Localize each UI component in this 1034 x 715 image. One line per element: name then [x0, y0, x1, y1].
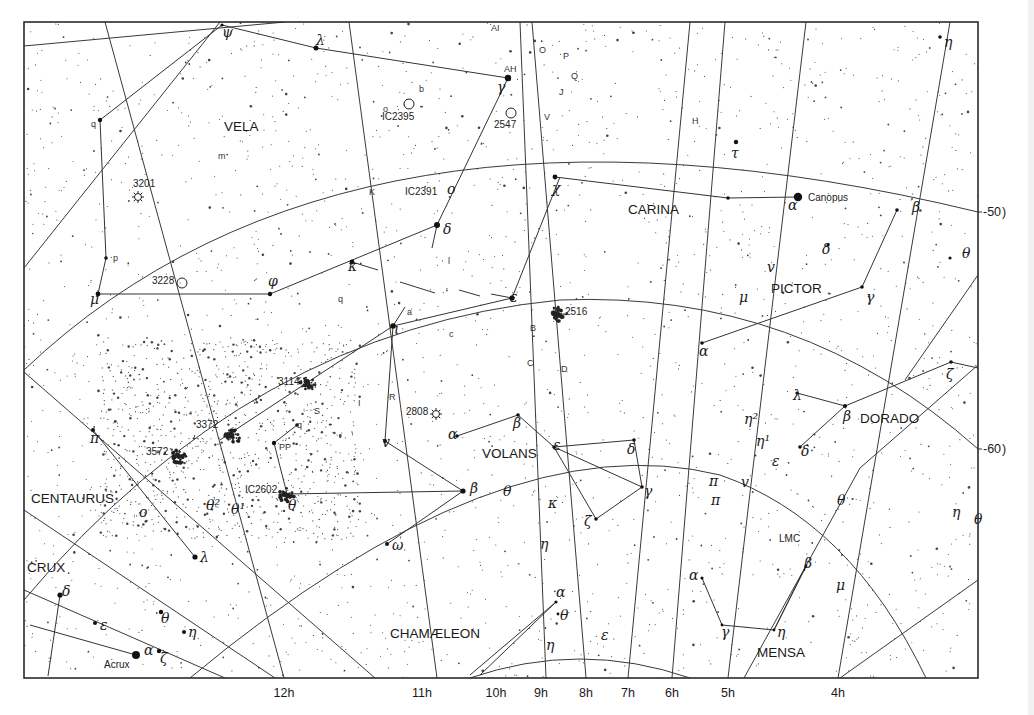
- faint-star: [232, 563, 234, 565]
- faint-star: [118, 408, 119, 409]
- faint-star: [41, 50, 42, 51]
- faint-star: [646, 30, 647, 31]
- faint-star: [140, 99, 141, 100]
- faint-star: [852, 640, 853, 641]
- faint-star: [101, 512, 102, 513]
- faint-star: [146, 337, 148, 339]
- faint-star: [404, 549, 405, 550]
- faint-star: [209, 343, 210, 344]
- faint-star: [187, 445, 188, 446]
- faint-star: [48, 168, 49, 169]
- star-designation: λ: [199, 549, 209, 565]
- faint-star: [437, 210, 438, 211]
- star-designation: η: [540, 536, 549, 552]
- faint-star: [741, 249, 742, 250]
- faint-star: [211, 405, 212, 406]
- faint-star: [881, 452, 882, 453]
- faint-star: [67, 78, 68, 79]
- faint-star: [421, 472, 422, 473]
- faint-star: [913, 31, 914, 32]
- faint-star: [117, 588, 118, 589]
- faint-star: [747, 255, 749, 257]
- faint-star: [237, 523, 238, 524]
- faint-star: [679, 178, 680, 179]
- faint-star: [331, 417, 332, 418]
- faint-star: [142, 300, 143, 301]
- faint-star: [183, 462, 185, 464]
- faint-star: [758, 663, 759, 664]
- faint-star: [327, 475, 328, 476]
- faint-star: [135, 489, 136, 490]
- faint-star: [212, 485, 214, 487]
- faint-star: [478, 378, 479, 379]
- faint-star: [933, 179, 934, 180]
- faint-star: [191, 329, 192, 330]
- faint-star: [190, 411, 191, 412]
- faint-star: [692, 456, 694, 458]
- faint-star: [722, 222, 723, 223]
- constellation-name-volans: VOLANS: [482, 446, 537, 461]
- faint-star: [229, 403, 230, 404]
- faint-star: [300, 491, 302, 493]
- faint-star: [98, 515, 99, 516]
- faint-star: [118, 365, 119, 366]
- faint-star: [856, 615, 857, 616]
- faint-star: [298, 108, 299, 109]
- faint-star: [101, 586, 102, 587]
- faint-star: [176, 466, 177, 467]
- faint-star: [232, 343, 234, 345]
- faint-star: [939, 357, 940, 358]
- faint-star: [359, 47, 361, 49]
- faint-star: [269, 636, 270, 637]
- faint-star: [306, 449, 307, 450]
- faint-star: [424, 541, 425, 542]
- faint-star: [153, 490, 154, 491]
- faint-star: [669, 37, 670, 38]
- faint-star: [825, 264, 826, 265]
- faint-star: [351, 460, 352, 461]
- faint-star: [212, 519, 213, 520]
- star-designation: θ²: [206, 497, 220, 513]
- faint-star: [679, 48, 680, 49]
- faint-star: [193, 477, 195, 479]
- faint-star: [858, 227, 859, 228]
- faint-star: [40, 339, 41, 340]
- faint-star: [292, 419, 294, 421]
- faint-star: [308, 537, 309, 538]
- faint-star: [767, 164, 768, 165]
- faint-star: [585, 176, 586, 177]
- faint-star: [247, 507, 248, 508]
- faint-star: [221, 192, 222, 193]
- faint-star: [862, 627, 863, 628]
- faint-star: [262, 513, 263, 514]
- faint-star: [890, 432, 891, 433]
- faint-star: [261, 67, 262, 68]
- faint-star: [148, 411, 149, 412]
- faint-star: [272, 497, 273, 498]
- faint-star: [592, 25, 593, 26]
- faint-star: [241, 50, 242, 51]
- faint-star: [916, 99, 917, 100]
- faint-star: [544, 430, 545, 431]
- faint-star: [153, 530, 154, 531]
- faint-star: [519, 629, 521, 631]
- ra-tick-label: 7h: [621, 686, 635, 700]
- faint-star: [588, 168, 589, 169]
- faint-star: [322, 420, 323, 421]
- faint-star: [426, 80, 427, 81]
- faint-star: [331, 539, 332, 540]
- faint-star: [300, 369, 301, 370]
- faint-star: [419, 333, 420, 334]
- star-designation: β: [512, 415, 521, 431]
- faint-star: [900, 623, 901, 624]
- faint-star: [327, 470, 328, 471]
- faint-star: [352, 510, 355, 513]
- faint-star: [174, 409, 175, 410]
- faint-star: [312, 512, 313, 513]
- faint-star: [264, 312, 265, 313]
- faint-star: [373, 178, 375, 180]
- faint-star: [357, 186, 358, 187]
- faint-star: [432, 421, 433, 422]
- faint-star: [245, 375, 246, 376]
- faint-star: [540, 640, 541, 641]
